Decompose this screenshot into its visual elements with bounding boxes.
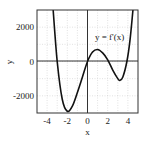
x-tick-labels: -4-2024 xyxy=(43,116,130,126)
y-tick-label: 0 xyxy=(30,57,35,67)
x-tick-label: -2 xyxy=(64,116,72,126)
y-tick-labels: -200002000 xyxy=(13,22,35,101)
x-tick-label: 0 xyxy=(85,116,90,126)
chart: -4-2024 -200002000 x y y = f'(x) xyxy=(0,0,147,147)
y-axis-label: y xyxy=(4,59,14,64)
x-tick-label: -4 xyxy=(43,116,51,126)
y-tick-label: 2000 xyxy=(16,22,35,32)
curve-annotation: y = f'(x) xyxy=(95,32,124,42)
x-tick-label: 4 xyxy=(126,116,131,126)
x-axis-label: x xyxy=(85,127,90,137)
y-tick-label: -2000 xyxy=(13,91,34,101)
x-tick-label: 2 xyxy=(105,116,110,126)
